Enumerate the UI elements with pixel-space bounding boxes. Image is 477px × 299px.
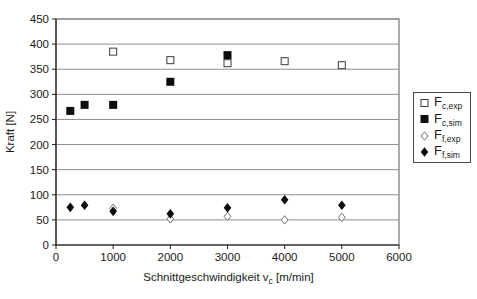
- legend-entry-F-c-exp: Fc,exp: [419, 96, 470, 111]
- x-tick-label: 2000: [158, 251, 184, 263]
- legend-diamond-filled-icon: [419, 146, 430, 158]
- x-tick-label: 3000: [215, 251, 241, 263]
- legend-square-filled-icon: [419, 113, 430, 125]
- y-axis-title: Kraft [N]: [4, 111, 16, 153]
- force-vs-cutting-speed-chart: 0501001502002503003504004500100020003000…: [0, 0, 477, 299]
- data-point-diamond-filled-icon: [224, 203, 232, 213]
- x-axis-title: Schnittgeschwindigkeit vc [m/min]: [143, 271, 313, 286]
- data-point-square-filled-icon: [109, 101, 117, 109]
- legend-entry-F-f-sim: Ff,sim: [419, 144, 470, 159]
- x-tick-label: 6000: [386, 251, 412, 263]
- y-tick-label: 450: [30, 13, 49, 25]
- y-tick-label: 100: [30, 189, 49, 201]
- x-tick-label: 5000: [329, 251, 355, 263]
- data-point-square-filled-icon: [66, 107, 74, 115]
- legend-entry-F-c-sim: Fc,sim: [419, 112, 470, 127]
- data-point-square-open-icon: [338, 62, 345, 69]
- y-tick-label: 200: [30, 139, 49, 151]
- legend-label: Ff,exp: [434, 128, 460, 144]
- y-tick-label: 0: [43, 239, 49, 251]
- data-point-square-filled-icon: [421, 115, 429, 123]
- legend-square-open-icon: [419, 97, 430, 109]
- x-tick-label: 0: [53, 251, 59, 263]
- data-point-square-open-icon: [224, 60, 231, 67]
- y-tick-label: 250: [30, 113, 49, 125]
- scatter-plot-area: 0501001502002503003504004500100020003000…: [0, 0, 477, 299]
- x-tick-label: 4000: [272, 251, 298, 263]
- data-point-diamond-filled-icon: [281, 195, 289, 205]
- x-tick-label: 1000: [100, 251, 126, 263]
- data-point-diamond-open-icon: [281, 216, 288, 224]
- data-point-square-open-icon: [110, 48, 117, 55]
- legend-label: Fc,exp: [434, 95, 462, 111]
- y-tick-label: 350: [30, 63, 49, 75]
- data-point-diamond-filled-icon: [66, 203, 74, 213]
- chart-legend: Fc,expFc,simFf,expFf,sim: [413, 92, 471, 163]
- data-point-diamond-open-icon: [421, 131, 428, 139]
- data-point-square-filled-icon: [224, 51, 232, 59]
- y-tick-label: 150: [30, 164, 49, 176]
- legend-label: Fc,sim: [434, 112, 462, 128]
- y-tick-label: 50: [36, 214, 49, 226]
- data-point-square-open-icon: [281, 58, 288, 65]
- data-point-square-filled-icon: [166, 78, 174, 86]
- legend-diamond-open-icon: [419, 130, 430, 142]
- data-point-square-open-icon: [167, 57, 174, 64]
- legend-entry-F-f-exp: Ff,exp: [419, 128, 470, 143]
- data-point-diamond-open-icon: [224, 212, 231, 220]
- data-point-diamond-filled-icon: [81, 201, 89, 211]
- data-point-square-filled-icon: [81, 101, 89, 109]
- y-tick-label: 300: [30, 88, 49, 100]
- y-tick-label: 400: [30, 38, 49, 50]
- data-point-diamond-filled-icon: [421, 147, 429, 157]
- data-point-diamond-filled-icon: [338, 201, 346, 211]
- legend-label: Ff,sim: [434, 144, 460, 160]
- data-point-square-open-icon: [421, 100, 428, 107]
